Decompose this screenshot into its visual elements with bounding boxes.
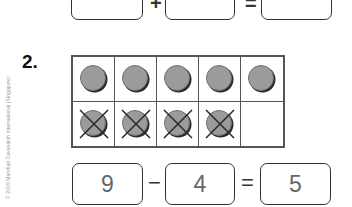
question-number: 2. (22, 51, 38, 73)
ten-frame-cell (115, 57, 157, 102)
difference-box[interactable]: 5 (260, 163, 331, 205)
counter-icon (206, 65, 232, 91)
previous-addend-a-box[interactable]: 8 (71, 0, 143, 20)
previous-addend-a: 8 (101, 0, 114, 5)
cross-out-icon (119, 107, 153, 141)
cross-out-icon (203, 107, 237, 141)
minuend-box[interactable]: 9 (72, 163, 143, 205)
copyright-notice: © 2009 Marshall Cavendish International … (5, 0, 11, 199)
previous-sum: 10 (284, 0, 310, 5)
ten-frame-cell (157, 57, 199, 102)
subtrahend-value: 4 (194, 171, 207, 198)
subtrahend-box[interactable]: 4 (165, 163, 235, 205)
ten-frame-cell-empty (241, 102, 283, 147)
cross-out-icon (77, 107, 111, 141)
cross-out-icon (161, 107, 195, 141)
ten-frame-cell (157, 102, 199, 147)
previous-addend-b-box[interactable]: 2 (165, 0, 235, 20)
counter-icon (80, 65, 106, 91)
ten-frame-cell (73, 57, 115, 102)
previous-equals-sign: = (245, 0, 257, 15)
previous-addend-b: 2 (194, 0, 207, 5)
equals-sign: = (241, 170, 254, 196)
previous-plus-sign: + (150, 0, 162, 15)
previous-sum-box[interactable]: 10 (261, 0, 332, 20)
ten-frame-cell (199, 102, 241, 147)
minuend-value: 9 (101, 171, 114, 198)
difference-value: 5 (289, 171, 302, 198)
counter-icon (122, 65, 148, 91)
ten-frame-cell (115, 102, 157, 147)
ten-frame-cell (73, 102, 115, 147)
counter-icon (164, 65, 190, 91)
minus-sign: − (148, 170, 161, 196)
ten-frame-cell (241, 57, 283, 102)
ten-frame-cell (199, 57, 241, 102)
ten-frame (71, 55, 285, 148)
counter-icon (248, 65, 274, 91)
